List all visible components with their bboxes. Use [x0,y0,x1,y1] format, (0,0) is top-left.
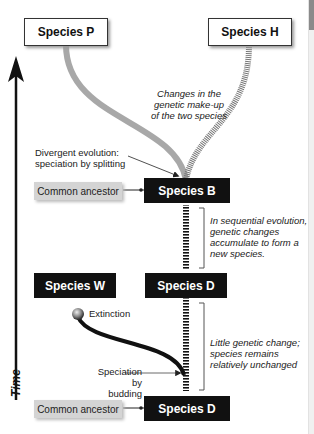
species-w-box: Species W [34,273,116,298]
divergent-label: Divergent evolution: speciation by split… [35,147,145,169]
species-h-box: Species H [208,18,292,46]
sequential-note: In sequential evolution, genetic changes… [210,215,310,259]
changes-note: Changes in the genetic make-up of the tw… [134,88,244,121]
extinction-ball [72,308,84,320]
little-change-note: Little genetic change; species remains r… [210,337,310,370]
budding-label: Speciation by budding [96,366,142,399]
common-ancestor-top: Common ancestor [34,182,122,200]
scrollbar-thumb[interactable] [309,0,314,30]
stasis-ladder [183,298,189,391]
extinction-label: Extinction [89,308,130,319]
time-label-wrap: Time [6,368,26,398]
common-ancestor-bottom: Common ancestor [34,400,122,418]
time-arrow [8,56,24,400]
scrollbar-track[interactable] [308,0,314,434]
species-d-lower-box: Species D [144,396,230,421]
species-p-box: Species P [24,18,108,46]
species-d-upper-box: Species D [145,273,227,298]
species-b-box: Species B [144,178,230,203]
sequential-ladder [183,205,189,270]
time-label: Time [9,369,23,397]
